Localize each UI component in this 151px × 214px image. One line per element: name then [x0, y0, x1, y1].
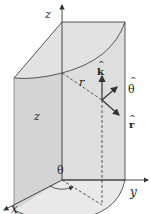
radius-label: r	[79, 76, 85, 89]
x-axis-label: x	[11, 202, 18, 214]
z-axis-label: z	[44, 8, 51, 21]
angle-label: θ	[57, 164, 64, 177]
theta-hat-label: θ	[128, 83, 135, 96]
r-hat-caret: ^	[129, 113, 136, 122]
cylindrical-coordinates-diagram: z y x z r θ k ^ θ ^ r ^	[0, 0, 151, 214]
height-label: z	[33, 110, 40, 123]
y-axis-label: y	[129, 185, 137, 199]
theta-hat-caret: ^	[130, 75, 137, 84]
k-hat-caret: ^	[98, 59, 105, 68]
